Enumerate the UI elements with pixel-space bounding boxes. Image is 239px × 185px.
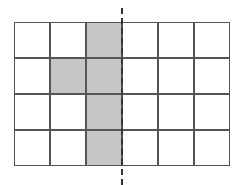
grid-cell <box>50 94 86 130</box>
grid-cell <box>194 130 230 166</box>
grid-cell <box>50 22 86 58</box>
grid-cell <box>14 130 50 166</box>
grid-cell <box>14 22 50 58</box>
grid-cell <box>14 94 50 130</box>
shaded-cell <box>86 130 122 166</box>
grid-cell <box>158 130 194 166</box>
shaded-cell <box>86 58 122 94</box>
shaded-cell <box>86 94 122 130</box>
shaded-cell <box>86 22 122 58</box>
dashed-symmetry-line <box>121 8 123 185</box>
grid-cell <box>158 94 194 130</box>
grid-cell <box>158 58 194 94</box>
grid-cell <box>158 22 194 58</box>
grid-cell <box>194 58 230 94</box>
grid-cell <box>122 94 158 130</box>
grid-cell <box>122 130 158 166</box>
shaded-cell <box>50 58 86 94</box>
grid-cell <box>50 130 86 166</box>
grid-cell <box>14 58 50 94</box>
grid-cell <box>194 94 230 130</box>
grid-cell <box>122 22 158 58</box>
grid-cell <box>122 58 158 94</box>
grid-cell <box>194 22 230 58</box>
